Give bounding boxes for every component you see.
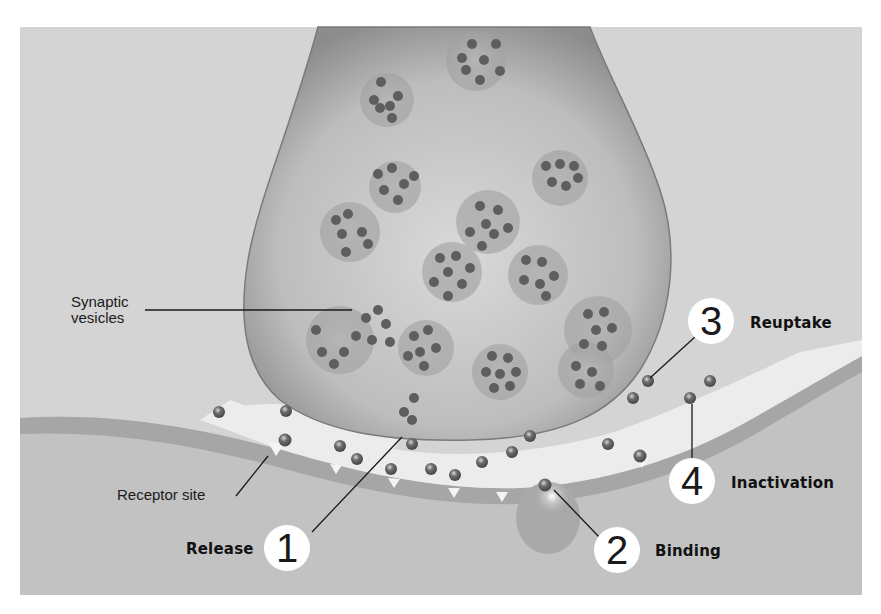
step-2-badge: 2 bbox=[594, 527, 640, 573]
step-4-badge: 4 bbox=[669, 458, 715, 504]
step-inactivation-label: Inactivation bbox=[731, 474, 834, 492]
receptor-site-label: Receptor site bbox=[117, 487, 205, 503]
synaptic-vesicles-label-line1: Synaptic bbox=[71, 294, 129, 310]
step-binding-label: Binding bbox=[655, 542, 721, 560]
synaptic-vesicles-label: Synaptic vesicles bbox=[71, 294, 129, 326]
synapse-illustration bbox=[0, 0, 881, 614]
step-1-badge: 1 bbox=[264, 525, 310, 571]
synaptic-vesicles-label-line2: vesicles bbox=[71, 310, 129, 326]
step-release-label: Release bbox=[186, 540, 254, 558]
synapse-diagram: Synaptic vesicles Receptor site Release … bbox=[0, 0, 881, 614]
step-reuptake-label: Reuptake bbox=[750, 314, 832, 332]
step-3-badge: 3 bbox=[688, 298, 734, 344]
